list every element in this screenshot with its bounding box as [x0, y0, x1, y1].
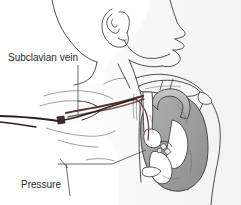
illustration-figure: Subclavian vein Pressure monitor above r… [0, 0, 241, 205]
label-pressure-monitor: Pressure monitor above right atrium [2, 156, 80, 205]
label-pressure-monitor-line-1: Pressure [2, 179, 80, 191]
label-subclavian-vein: Subclavian vein [8, 52, 78, 64]
catheter-hub [57, 116, 65, 124]
